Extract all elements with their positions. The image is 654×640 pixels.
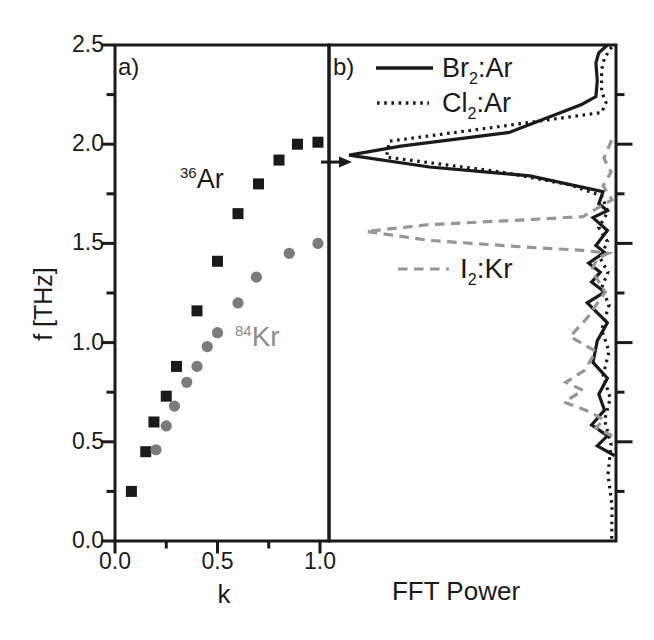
legend-cl2ar-sub: 2 bbox=[468, 105, 477, 122]
data-point-square-36Ar bbox=[212, 256, 223, 267]
legend-br2ar-pre: Br bbox=[442, 53, 469, 83]
data-point-square-36Ar bbox=[292, 139, 303, 150]
data-point-circle-84Kr bbox=[169, 400, 180, 411]
panel-a-tag: a) bbox=[118, 54, 139, 80]
data-point-circle-84Kr bbox=[150, 444, 161, 455]
data-point-square-36Ar bbox=[192, 305, 203, 316]
data-point-square-36Ar bbox=[126, 486, 137, 497]
annotation-84Kr: 84Kr bbox=[235, 322, 280, 353]
data-point-square-36Ar bbox=[148, 416, 159, 427]
annotation-84Kr-text: Kr bbox=[252, 321, 280, 352]
x-tick-label: 0.0 bbox=[83, 549, 147, 574]
arrow-head bbox=[339, 157, 352, 168]
data-point-circle-84Kr bbox=[191, 361, 202, 372]
data-point-square-36Ar bbox=[161, 391, 172, 402]
data-point-square-36Ar bbox=[312, 137, 323, 148]
data-point-circle-84Kr bbox=[251, 272, 262, 283]
legend-i2kr-pre: I bbox=[460, 253, 468, 284]
panel-b-tag: b) bbox=[333, 54, 354, 80]
x-axis-title-fft-power: FFT Power bbox=[386, 577, 526, 606]
legend-i2kr-post: :Kr bbox=[477, 253, 513, 284]
legend-label-i2kr: I2:Kr bbox=[460, 254, 512, 285]
y-axis-title: f [THz] bbox=[30, 244, 60, 364]
legend-i2kr-sub: 2 bbox=[468, 271, 477, 288]
annotation-36Ar-sup: 36 bbox=[180, 164, 197, 181]
data-point-circle-84Kr bbox=[161, 420, 172, 431]
data-point-square-36Ar bbox=[233, 208, 244, 219]
legend-cl2ar-post: :Ar bbox=[476, 88, 511, 118]
data-point-circle-84Kr bbox=[212, 327, 223, 338]
legend-label-br2ar: Br2:Ar bbox=[442, 54, 512, 84]
panel-a-frame bbox=[115, 45, 329, 541]
data-point-circle-84Kr bbox=[181, 377, 192, 388]
legend-br2ar-post: :Ar bbox=[478, 53, 513, 83]
data-point-square-36Ar bbox=[140, 446, 151, 457]
data-point-square-36Ar bbox=[274, 155, 285, 166]
annotation-36Ar-text: Ar bbox=[197, 164, 224, 194]
data-point-circle-84Kr bbox=[312, 238, 323, 249]
annotation-84Kr-sup: 84 bbox=[235, 322, 252, 339]
x-axis-title-k: k bbox=[204, 580, 244, 609]
legend-label-cl2ar: Cl2:Ar bbox=[442, 89, 511, 119]
x-tick-label: 1.0 bbox=[288, 549, 352, 574]
data-point-square-36Ar bbox=[253, 178, 264, 189]
data-point-circle-84Kr bbox=[284, 248, 295, 259]
y-tick-label: 0.5 bbox=[52, 429, 104, 454]
fft-curve-Cl2-Ar bbox=[386, 47, 612, 540]
data-point-circle-84Kr bbox=[202, 341, 213, 352]
annotation-36Ar: 36Ar bbox=[180, 165, 224, 195]
x-tick-label: 0.5 bbox=[186, 549, 250, 574]
legend-br2ar-sub: 2 bbox=[469, 70, 478, 87]
data-point-circle-84Kr bbox=[232, 297, 243, 308]
data-point-square-36Ar bbox=[171, 361, 182, 372]
y-tick-label: 2.0 bbox=[52, 131, 104, 156]
figure: 2.52.01.51.00.50.0 0.00.51.0 f [THz] k F… bbox=[0, 0, 654, 640]
legend-cl2ar-pre: Cl bbox=[442, 88, 468, 118]
y-tick-label: 2.5 bbox=[52, 32, 104, 57]
